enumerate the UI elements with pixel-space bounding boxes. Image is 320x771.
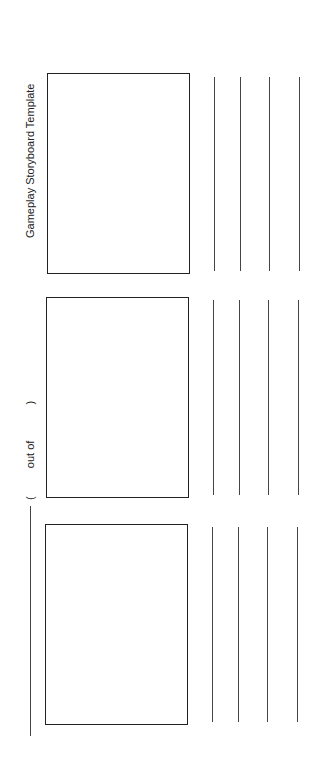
storyboard-frame-1[interactable] [47, 73, 190, 274]
frame-2-line-4 [298, 300, 299, 495]
frame-1-line-2 [240, 77, 241, 271]
document-title: Gameplay Storyboard Template [24, 84, 36, 239]
frame-3-line-2 [238, 527, 239, 722]
paren-close: ) [24, 401, 36, 405]
frame-3-line-4 [297, 527, 298, 722]
page-indicator: ( out of ) [24, 401, 36, 500]
frame-2-line-1 [213, 300, 214, 495]
storyboard-frame-3[interactable] [45, 524, 188, 725]
paren-open: ( [24, 496, 36, 500]
frame-1-line-3 [269, 77, 270, 271]
frame-2-line-3 [268, 300, 269, 495]
frame-1-line-4 [299, 77, 300, 271]
frame-3-line-1 [212, 527, 213, 722]
frame-1-line-1 [214, 77, 215, 271]
page-indicator-label: out of [24, 441, 36, 469]
frame-2-line-2 [239, 300, 240, 495]
frame-3-line-3 [267, 527, 268, 722]
name-line [30, 506, 31, 736]
storyboard-frame-2[interactable] [46, 297, 189, 498]
